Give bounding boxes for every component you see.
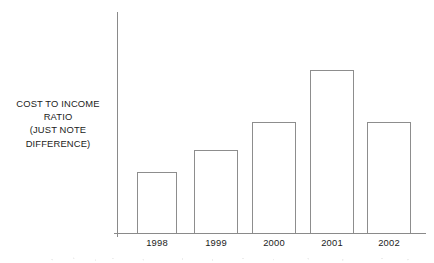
bar-1999: [194, 150, 238, 233]
y-axis-line: [117, 12, 118, 237]
x-tick-label-1998: 1998: [127, 237, 187, 248]
x-tick-label-2002: 2002: [359, 237, 419, 248]
scan-artifact-strip: [0, 255, 434, 263]
bar-2001: [310, 70, 354, 233]
x-tick-label-2001: 2001: [302, 237, 362, 248]
x-tick-label-1999: 1999: [186, 237, 246, 248]
x-axis-line: [114, 233, 426, 234]
plot-area: 1998 1999 2000 2001 2002: [0, 0, 434, 263]
x-tick-label-2000: 2000: [244, 237, 304, 248]
bar-1998: [137, 172, 177, 233]
bar-chart-figure: COST TO INCOME RATIO (JUST NOTE DIFFEREN…: [0, 0, 434, 263]
bar-2000: [252, 122, 296, 233]
bar-2002: [367, 122, 411, 233]
